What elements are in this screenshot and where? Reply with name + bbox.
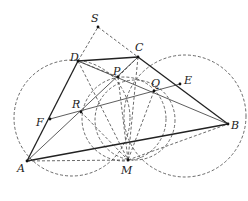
point-A <box>26 160 29 163</box>
edge-AD <box>27 61 78 161</box>
point-M <box>127 159 130 162</box>
edge-AB <box>27 124 228 161</box>
point-B <box>227 123 230 126</box>
label-C: C <box>135 41 144 54</box>
point-F <box>49 118 52 121</box>
line-CM <box>128 57 138 160</box>
line-FE <box>50 84 180 119</box>
point-C <box>137 56 140 59</box>
label-S: S <box>91 12 99 25</box>
line-QM <box>128 91 154 160</box>
point-R <box>80 111 83 114</box>
line-DP <box>78 61 118 77</box>
line-SC <box>98 27 138 57</box>
line-RM <box>81 112 128 160</box>
label-R: R <box>71 98 80 111</box>
label-F: F <box>35 116 44 129</box>
point-E <box>179 83 182 86</box>
edge-DC <box>78 57 138 61</box>
label-A: A <box>16 162 25 175</box>
line-DM <box>78 61 128 160</box>
line-AC <box>27 57 138 161</box>
line-AM <box>27 160 128 161</box>
point-S <box>97 26 100 29</box>
point-Q <box>153 90 156 93</box>
line-DS <box>78 27 98 61</box>
label-P: P <box>112 65 121 78</box>
label-D: D <box>69 51 79 64</box>
label-B: B <box>230 119 239 132</box>
label-E: E <box>183 74 192 87</box>
geometry-diagram: SDCPQERFABM <box>0 0 248 201</box>
label-Q: Q <box>151 77 160 90</box>
edge-CB <box>138 57 228 124</box>
diagram-canvas: SDCPQERFABM <box>0 0 248 201</box>
line-PM <box>118 77 128 160</box>
label-M: M <box>120 164 133 177</box>
line-MB <box>128 124 228 160</box>
